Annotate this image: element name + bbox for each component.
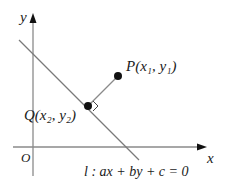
- coordinate-diagram: [0, 0, 226, 188]
- y-axis-arrow-icon: [30, 13, 37, 23]
- x-axis-arrow-icon: [197, 144, 207, 151]
- x-axis-label: x: [207, 151, 214, 166]
- line-l: [19, 40, 139, 160]
- origin-label: O: [21, 151, 30, 164]
- line-equation-label: l : ax + by + c = 0: [84, 165, 189, 179]
- right-angle-marker-icon: [93, 101, 98, 111]
- segment-pq: [88, 76, 118, 106]
- point-p-label: P(x₁, y₁): [126, 59, 176, 74]
- point-q-label: Q(x₂, y₂): [24, 108, 76, 123]
- y-axis-label: y: [20, 10, 27, 25]
- point-q: [84, 102, 92, 110]
- point-p: [114, 72, 122, 80]
